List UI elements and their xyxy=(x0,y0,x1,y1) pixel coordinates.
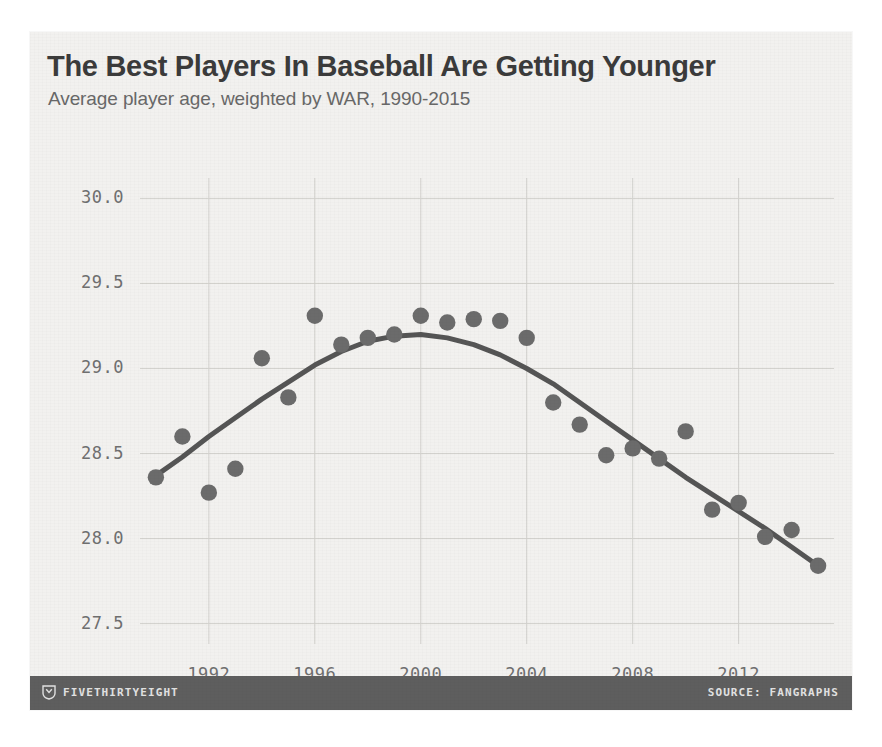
data-point xyxy=(386,326,402,342)
data-point xyxy=(360,330,376,346)
data-point xyxy=(704,501,720,517)
y-tick-label: 28.0 xyxy=(52,528,124,548)
brand-name: FIVETHIRTYEIGHT xyxy=(63,686,179,699)
y-tick-label: 27.5 xyxy=(52,613,124,633)
data-point xyxy=(148,469,164,485)
data-point xyxy=(730,495,746,511)
data-point xyxy=(492,313,508,329)
data-point xyxy=(783,522,799,538)
trend-line xyxy=(156,334,818,565)
data-point xyxy=(757,529,773,545)
chart-subtitle: Average player age, weighted by WAR, 199… xyxy=(48,88,470,110)
data-point xyxy=(572,416,588,432)
data-point xyxy=(174,428,190,444)
y-tick-label: 28.5 xyxy=(52,443,124,463)
chart-footer-bar: FIVETHIRTYEIGHT SOURCE: FANGRAPHS xyxy=(30,676,852,710)
data-point xyxy=(439,314,455,330)
data-point xyxy=(227,461,243,477)
y-tick-label: 29.0 xyxy=(52,357,124,377)
data-point xyxy=(307,308,323,324)
plot-area xyxy=(140,178,834,644)
data-point xyxy=(810,558,826,574)
data-point xyxy=(413,308,429,324)
data-point xyxy=(201,484,217,500)
data-point xyxy=(677,423,693,439)
data-point xyxy=(333,336,349,352)
chart-title: The Best Players In Baseball Are Getting… xyxy=(47,50,837,83)
y-tick-label: 30.0 xyxy=(52,187,124,207)
brand-block: FIVETHIRTYEIGHT xyxy=(42,685,179,700)
data-point xyxy=(624,440,640,456)
data-point xyxy=(466,311,482,327)
data-point xyxy=(598,447,614,463)
fivethirtyeight-shield-icon xyxy=(42,685,56,700)
data-point xyxy=(651,450,667,466)
source-credit: SOURCE: FANGRAPHS xyxy=(708,686,839,699)
scatter-plot-svg xyxy=(140,178,834,644)
vertical-gridlines xyxy=(209,178,739,644)
data-point xyxy=(254,350,270,366)
data-point xyxy=(545,394,561,410)
chart-figure: The Best Players In Baseball Are Getting… xyxy=(30,32,852,710)
data-point xyxy=(280,389,296,405)
data-point xyxy=(519,330,535,346)
screenshot-canvas: The Best Players In Baseball Are Getting… xyxy=(0,0,882,747)
y-tick-label: 29.5 xyxy=(52,272,124,292)
